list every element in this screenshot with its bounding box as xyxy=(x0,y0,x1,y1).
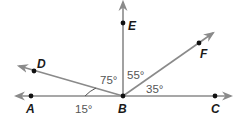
point-F xyxy=(197,41,202,46)
point-C xyxy=(213,94,218,99)
angle-EBF-label: 55° xyxy=(127,69,144,81)
label-A: A xyxy=(25,102,35,116)
angle-ABD-label: 15° xyxy=(75,103,92,115)
point-A xyxy=(29,94,34,99)
point-B xyxy=(121,94,126,99)
label-E: E xyxy=(128,19,137,33)
angle-arc-ABD xyxy=(85,88,96,96)
angle-FBC-label: 35° xyxy=(146,83,163,95)
label-C: C xyxy=(211,102,220,116)
point-E xyxy=(121,21,126,26)
point-D xyxy=(32,69,37,74)
label-F: F xyxy=(200,47,208,61)
angle-diagram: A B C D E F 75° 55° 35° 15° xyxy=(0,0,243,120)
label-D: D xyxy=(37,57,46,71)
label-B: B xyxy=(118,102,127,116)
angle-DBE-label: 75° xyxy=(100,74,117,86)
diagram-canvas: A B C D E F 75° 55° 35° 15° xyxy=(0,0,243,120)
